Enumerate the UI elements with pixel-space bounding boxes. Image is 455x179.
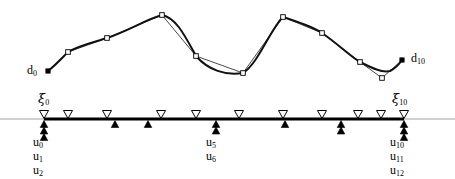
- control-point-endpoint: [400, 58, 404, 62]
- knot-down-triangle: [157, 111, 166, 119]
- parameter-label: u5: [206, 136, 216, 150]
- knot-down-triangle: [235, 111, 244, 119]
- control-point-square: [320, 31, 325, 36]
- parameter-up-triangle: [111, 121, 119, 128]
- knot-down-triangle: [103, 111, 112, 119]
- parameter-markers: [40, 121, 408, 141]
- control-point-square: [358, 60, 363, 65]
- control-point-square: [241, 71, 246, 76]
- control-point-square: [66, 50, 71, 55]
- knot-down-triangle: [318, 111, 327, 119]
- control-point-square: [160, 13, 165, 18]
- label-d10: d10: [411, 52, 425, 66]
- knot-down-triangle: [279, 111, 288, 119]
- label-d0: d0: [27, 64, 37, 78]
- figure-canvas: [0, 0, 455, 179]
- parameter-label: u11: [390, 150, 404, 164]
- knot-down-triangle: [354, 111, 363, 119]
- parameter-up-triangle: [337, 127, 345, 134]
- parameter-label: u10: [390, 136, 404, 150]
- knot-down-triangle: [64, 111, 73, 119]
- parameter-label: u6: [206, 150, 216, 164]
- knot-down-triangle: [377, 111, 386, 119]
- control-polyline: [48, 15, 402, 78]
- control-point-square: [281, 15, 286, 20]
- knot-down-triangle: [192, 111, 201, 119]
- control-point-square: [105, 36, 110, 41]
- parameter-up-triangle: [212, 127, 220, 134]
- parameter-up-triangle: [281, 121, 289, 128]
- label-xi0: ξ0: [38, 92, 49, 107]
- parameter-label: u0: [33, 136, 43, 150]
- bspline-curve: [48, 15, 402, 74]
- knot-down-triangle: [400, 111, 409, 119]
- label-xi10: ξ10: [392, 92, 407, 107]
- control-point-square: [380, 76, 385, 81]
- parameter-label: u1: [33, 150, 43, 164]
- knot-down-triangle: [40, 111, 49, 119]
- bspline-figure: d0 d10 ξ0 ξ10 u0u1u2u5u6u10u11u12: [0, 0, 455, 179]
- control-point-square: [194, 54, 199, 59]
- control-polygon: [48, 15, 402, 78]
- parameter-label: u2: [33, 164, 43, 178]
- curve-path: [48, 15, 402, 74]
- control-point-endpoint: [46, 69, 50, 73]
- control-point-markers: [46, 13, 404, 81]
- parameter-label: u12: [390, 164, 404, 178]
- parameter-up-triangle: [144, 121, 152, 128]
- knot-markers: [40, 111, 409, 119]
